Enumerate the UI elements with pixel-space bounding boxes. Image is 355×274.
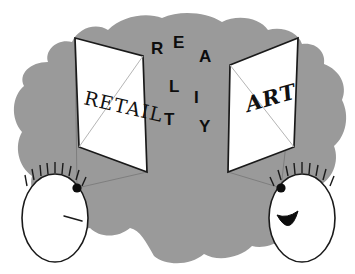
- reality-letter-i: I: [194, 88, 199, 107]
- left-face-eye: [72, 183, 81, 192]
- reality-letter-r: R: [151, 39, 163, 58]
- reality-letter-l: L: [169, 77, 179, 96]
- right-face-eye: [276, 183, 285, 192]
- reality-letter-e: E: [173, 33, 184, 52]
- scene-svg: RETAIL ART R E A L I T Y: [0, 0, 355, 274]
- illustration-canvas: RETAIL ART R E A L I T Y: [0, 0, 355, 274]
- reality-letter-a: A: [199, 47, 211, 66]
- reality-letter-y: Y: [199, 117, 211, 136]
- reality-letter-t: T: [164, 110, 175, 129]
